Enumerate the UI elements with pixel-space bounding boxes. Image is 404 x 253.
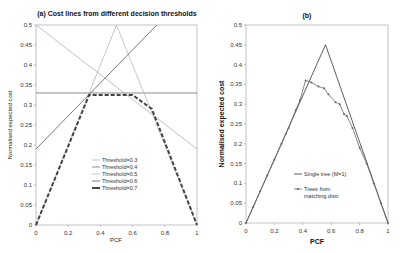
y-tick-label: 0.15: [230, 161, 242, 167]
legend-label: matching distr.: [304, 193, 340, 199]
data-point: [334, 101, 336, 103]
series-line-2: [36, 25, 197, 225]
data-point: [281, 143, 283, 145]
x-tick-label: 0.6: [128, 230, 137, 236]
data-point: [352, 127, 354, 129]
x-tick-label: 0: [244, 228, 248, 234]
panel-b: (b) 00.050.10.150.20.250.30.350.40.450.5…: [218, 12, 390, 245]
y-tick-label: 0.3: [234, 101, 243, 107]
panel-b-y-ticks: 00.050.10.150.20.250.30.350.40.450.5: [230, 22, 246, 226]
legend-label: Trees from: [304, 186, 331, 192]
y-tick-label: 0.5: [24, 22, 33, 28]
data-point: [380, 202, 382, 204]
panel-b-y-label: Normalised expected cost: [218, 80, 226, 167]
x-tick-label: 0.6: [327, 228, 336, 234]
x-tick-label: 0.8: [161, 230, 170, 236]
y-tick-label: 0.1: [24, 182, 33, 188]
x-tick-label: 1: [195, 230, 199, 236]
data-point: [273, 159, 275, 161]
data-point: [346, 115, 348, 117]
data-point: [387, 222, 389, 224]
panel-a-plot-area: [36, 25, 197, 225]
data-point: [366, 163, 368, 165]
panel-a-x-label: PCF: [110, 237, 122, 243]
legend-label: Threshold=0.5: [102, 171, 137, 177]
legend-label: Threshold=0.3: [102, 157, 137, 163]
y-tick-label: 0.35: [230, 81, 242, 87]
data-point: [310, 81, 312, 83]
y-tick-label: 0.5: [234, 22, 243, 28]
y-tick-label: 0.05: [230, 200, 242, 206]
y-tick-label: 0.4: [234, 62, 243, 68]
data-point: [359, 147, 361, 149]
series-line-3: [36, 25, 157, 149]
y-tick-label: 0.1: [234, 180, 243, 186]
y-tick-label: 0.45: [230, 42, 242, 48]
legend-label: Threshold=0.4: [102, 164, 137, 170]
data-point: [299, 99, 301, 101]
data-point: [305, 79, 307, 81]
series-line-1: [246, 80, 388, 223]
x-tick-label: 0.4: [96, 230, 105, 236]
data-point: [373, 182, 375, 184]
data-point: [259, 190, 261, 192]
panel-a: (a) Cost lines from different decision t…: [7, 10, 199, 243]
data-point: [323, 87, 325, 89]
data-point: [285, 133, 287, 135]
panel-a-y-label: Normalised expected cost: [7, 90, 13, 159]
y-tick-label: 0.2: [24, 142, 33, 148]
legend-label: Threshold=0.7: [102, 185, 137, 191]
panel-a-title: (a) Cost lines from different decision t…: [37, 10, 197, 18]
panel-b-x-ticks: 00.20.40.60.81: [244, 223, 390, 234]
x-tick-label: 0.2: [64, 230, 73, 236]
y-tick-label: 0.05: [20, 202, 32, 208]
panel-a-series: [36, 25, 197, 225]
y-tick-label: 0.4: [24, 62, 33, 68]
x-tick-label: 0.2: [270, 228, 279, 234]
panel-a-x-ticks: 00.20.40.60.81: [34, 225, 199, 236]
data-point: [266, 174, 268, 176]
y-tick-label: 0.25: [20, 122, 32, 128]
data-point: [327, 93, 329, 95]
data-point: [295, 109, 297, 111]
y-tick-label: 0.35: [20, 82, 32, 88]
data-point: [317, 85, 319, 87]
x-tick-label: 1: [386, 228, 390, 234]
data-point: [339, 103, 341, 105]
panel-a-y-ticks: 00.050.10.150.20.250.30.350.40.450.5: [20, 22, 36, 228]
data-point: [252, 206, 254, 208]
y-tick-label: 0: [239, 220, 243, 226]
series-line-0: [36, 25, 197, 149]
y-tick-label: 0: [29, 222, 33, 228]
panel-b-legend: Single tree (M=1)Trees frommatching dist…: [294, 171, 347, 199]
panel-b-title: (b): [303, 12, 312, 20]
legend-label: Single tree (M=1): [304, 171, 347, 177]
legend-label: Threshold=0.6: [102, 178, 137, 184]
panel-a-legend: Threshold=0.3Threshold=0.4Threshold=0.5T…: [92, 157, 137, 191]
data-point: [288, 127, 290, 129]
data-point: [343, 113, 345, 115]
x-tick-label: 0.8: [355, 228, 364, 234]
y-tick-label: 0.45: [20, 42, 32, 48]
figure: (a) Cost lines from different decision t…: [0, 0, 404, 253]
y-tick-label: 0.15: [20, 162, 32, 168]
panel-b-x-label: PCF: [310, 238, 325, 245]
data-point: [245, 222, 247, 224]
x-tick-label: 0.4: [299, 228, 308, 234]
x-tick-label: 0: [34, 230, 38, 236]
y-tick-label: 0.3: [24, 102, 33, 108]
legend-marker: [297, 188, 299, 190]
y-tick-label: 0.2: [234, 141, 243, 147]
y-tick-label: 0.25: [230, 121, 242, 127]
